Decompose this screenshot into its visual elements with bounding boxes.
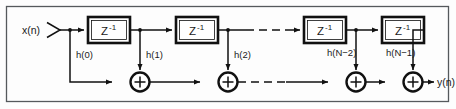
delay-block-exponent: -1 xyxy=(109,23,117,32)
output-signal-label: y(n) xyxy=(437,76,455,88)
adder-sum2 xyxy=(219,73,238,92)
delay-block-z1: Z -1 xyxy=(88,17,130,43)
delay-block-z3: Z -1 xyxy=(304,17,346,43)
coefficient-label-h1: h(1) xyxy=(146,49,163,60)
delay-block-label: Z xyxy=(317,25,324,37)
coefficient-label-h0: h(0) xyxy=(76,49,93,60)
coefficient-label-h2: h(2) xyxy=(234,49,251,60)
coefficient-label-hn1: h(N−1) xyxy=(386,47,415,58)
coefficient-label-hn2: h(N−2) xyxy=(327,47,356,58)
figure-canvas: x(n) Z -1 Z -1 Z xyxy=(0,0,456,109)
input-signal-label: x(n) xyxy=(22,24,40,36)
delay-block-label: Z xyxy=(101,25,108,37)
delay-block-z2: Z -1 xyxy=(176,17,218,43)
delay-block-label: Z xyxy=(395,25,402,37)
adder-sum3 xyxy=(347,73,366,92)
delay-block-exponent: -1 xyxy=(197,23,205,32)
adder-sum4 xyxy=(404,73,423,92)
adder-sum1 xyxy=(131,73,150,92)
delay-block-exponent: -1 xyxy=(403,23,411,32)
fir-filter-diagram: x(n) Z -1 Z -1 Z xyxy=(0,0,456,109)
delay-block-exponent: -1 xyxy=(325,23,333,32)
delay-block-label: Z xyxy=(189,25,196,37)
